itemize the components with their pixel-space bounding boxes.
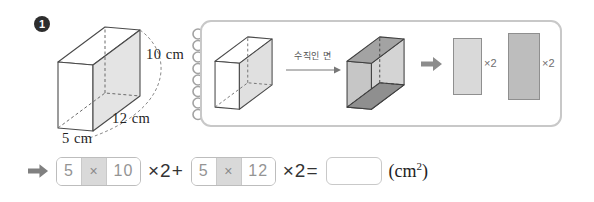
label-arrow-icon: [284, 64, 342, 76]
answer-input[interactable]: [326, 157, 382, 185]
right-arrow-icon: [421, 57, 443, 71]
times-two-plus: ×2+: [148, 160, 184, 182]
unit-open: (cm: [389, 161, 417, 181]
face-rect-small-multiplier: ×2: [484, 57, 497, 69]
face-rectangle-large: [508, 33, 540, 100]
perpendicular-faces-label: 수직인 면: [283, 49, 343, 62]
factor-cell: 5: [57, 158, 82, 185]
factor-box-group-2: 5 × 12: [191, 157, 276, 186]
operator-cell: ×: [82, 158, 107, 185]
face-rectangle-small: [453, 38, 482, 95]
prism-unshaded: [206, 25, 286, 119]
unit-label: (cm2): [389, 160, 428, 182]
factor-cell: 12: [242, 158, 275, 185]
factor-box-group-1: 5 × 10: [56, 157, 141, 186]
factor-cell: 5: [192, 158, 217, 185]
face-rect-large-multiplier: ×2: [542, 57, 555, 69]
times-two-equals: ×2=: [283, 160, 319, 182]
equation-arrow-icon: [28, 164, 49, 178]
length-label: 12 cm: [112, 110, 150, 127]
height-label: 10 cm: [146, 46, 184, 63]
factor-cell: 10: [107, 158, 140, 185]
operator-cell: ×: [217, 158, 242, 185]
unit-close: ): [422, 161, 428, 181]
equation-row: 5 × 10 ×2+ 5 × 12 ×2= (cm2): [28, 156, 428, 186]
prism-shaded-faces: [338, 25, 418, 119]
worksheet: 1 10 cm 12 cm 5 cm 수직인: [0, 0, 594, 202]
width-label: 5 cm: [62, 130, 93, 147]
prism-front-face: [58, 62, 93, 131]
